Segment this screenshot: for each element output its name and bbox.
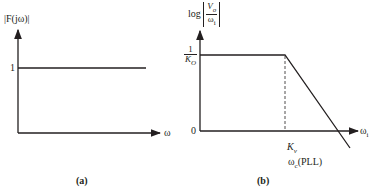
wi: ω [360,125,367,136]
figure: |F(jω)| 1 ω (a) log Vo ωi 1 KO 0 ωi Kv ω… [0,0,370,190]
wc: ω [288,156,295,167]
panel-a-y-tick-1: 1 [10,63,15,73]
panel-b-break-kv: Kv [287,142,297,155]
panel-b-y-label: log Vo ωi [188,2,220,27]
panel-b-y-tick-zero: 0 [191,126,196,136]
kv-sub: v [294,147,297,155]
kv: K [287,141,294,152]
panel-b-curve [200,55,350,148]
vo-sub: o [213,6,217,14]
panel-a-caption: (a) [76,176,88,186]
wi-sub2: i [367,131,369,139]
panel-b-x-label: ωi [360,126,369,139]
panel-b-caption: (b) [257,176,269,186]
panel-b-y-tick-top: 1 KO [184,45,197,67]
log-text: log [188,8,201,19]
wi-sub: i [214,19,216,27]
panel-a-x-label: ω [164,128,171,138]
panel-a-y-label: |F(jω)| [4,14,30,24]
pll: (PLL) [298,156,322,167]
k-sub: O [191,59,196,67]
panel-b-break-wc: ωc(PLL) [288,157,322,170]
